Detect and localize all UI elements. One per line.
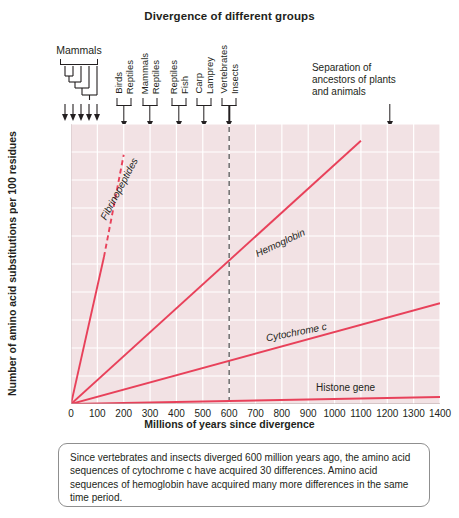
series-label-cytochrome-c: Cytochrome c <box>265 321 328 344</box>
y-axis-label: Number of amino acid substitutions per 1… <box>6 124 18 404</box>
series-label-fibrinopeptides: Fibrinopeptides <box>98 156 140 222</box>
plot-area: FibrinopeptidesHemoglobinCytochrome cHis… <box>71 124 440 404</box>
series-label-hemoglobin: Hemoglobin <box>253 227 306 260</box>
series-label-histone-gene: Histone gene <box>316 382 375 393</box>
series-labels: FibrinopeptidesHemoglobinCytochrome cHis… <box>71 124 440 404</box>
x-axis-label: Millions of years since divergence <box>0 418 459 430</box>
figure-caption: Since vertebrates and insects diverged 6… <box>58 443 430 507</box>
figure-root: Divergence of different groups MammalsBi… <box>0 0 459 518</box>
